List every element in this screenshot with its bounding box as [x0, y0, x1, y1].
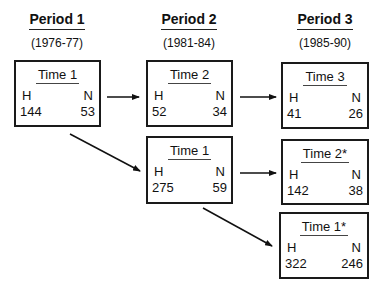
n-value: 26: [349, 106, 363, 121]
n-value: 53: [81, 104, 95, 119]
h-value: 142: [287, 183, 309, 198]
n-header: N: [352, 240, 361, 255]
h-header: H: [287, 240, 296, 255]
n-value: 246: [341, 256, 363, 271]
h-header: H: [154, 88, 163, 103]
box-label: Time 1: [36, 67, 79, 84]
n-value: 38: [349, 183, 363, 198]
n-header: N: [216, 88, 225, 103]
n-header: N: [216, 164, 225, 179]
box-label: Time 2: [168, 67, 211, 84]
n-value: 59: [213, 180, 227, 195]
h-value: 41: [287, 106, 301, 121]
n-header: N: [352, 90, 361, 105]
n-header: N: [352, 167, 361, 182]
box-label: Time 1*: [300, 219, 348, 236]
box-period2-time2: Time 2 H N 52 34: [146, 60, 233, 127]
h-header: H: [289, 90, 298, 105]
box-label: Time 1: [168, 143, 211, 160]
box-period1-time1: Time 1 H N 144 53: [14, 60, 101, 127]
h-header: H: [22, 88, 31, 103]
box-label: Time 2*: [301, 146, 349, 163]
h-value: 322: [285, 256, 307, 271]
box-period3-time3: Time 3 H N 41 26: [281, 62, 369, 129]
arrow-p1t1-to-p2t1: [70, 134, 140, 171]
h-header: H: [154, 164, 163, 179]
h-value: 275: [152, 180, 174, 195]
box-label: Time 3: [303, 69, 346, 86]
arrow-p2t1-to-p3t1star: [203, 208, 272, 246]
h-value: 144: [20, 104, 42, 119]
h-header: H: [289, 167, 298, 182]
box-period3-time2-star: Time 2* H N 142 38: [281, 139, 369, 205]
box-period2-time1: Time 1 H N 275 59: [146, 136, 233, 204]
n-header: N: [84, 88, 93, 103]
box-period3-time1-star: Time 1* H N 322 246: [279, 212, 369, 279]
n-value: 34: [213, 104, 227, 119]
h-value: 52: [152, 104, 166, 119]
